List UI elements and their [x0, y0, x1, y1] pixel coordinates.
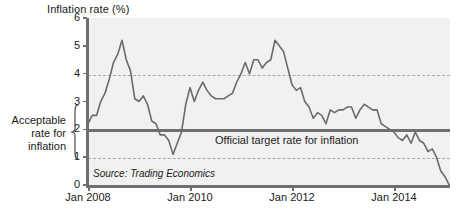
y-axis-tick: [83, 156, 87, 158]
y-axis-tick-label: 6: [66, 11, 80, 23]
y-axis-tick-label: 4: [66, 67, 80, 79]
y-axis-tick-label: 0: [66, 178, 80, 190]
x-axis-tick-label: Jan 2014: [371, 191, 416, 203]
chart-title: Inflation rate (%): [47, 3, 130, 15]
y-axis-tick: [83, 45, 87, 47]
inflation-data-line: [88, 18, 450, 185]
target-rate-label: Official target rate for inflation: [215, 134, 358, 146]
source-label: Source: Trading Economics: [93, 168, 215, 179]
acceptable-band-label-line1: Acceptable: [6, 114, 66, 127]
acceptable-band-brace-icon: [70, 104, 79, 160]
inflation-rate-chart: Inflation rate (%) 6543210 Jan 2008Jan 2…: [0, 0, 470, 212]
y-axis-tick-label: 5: [66, 39, 80, 51]
acceptable-band-label-line2: rate for: [6, 127, 66, 140]
y-axis-tick: [83, 129, 87, 131]
y-axis-tick: [83, 17, 87, 19]
x-axis-tick-label: Jan 2010: [167, 191, 212, 203]
x-axis-tick-label: Jan 2008: [65, 191, 110, 203]
x-axis-tick-label: Jan 2012: [269, 191, 314, 203]
y-axis-tick: [83, 101, 87, 103]
acceptable-band-label: Acceptable rate for inflation: [6, 114, 66, 153]
y-axis-tick: [83, 73, 87, 75]
acceptable-band-label-line3: inflation: [6, 140, 66, 153]
